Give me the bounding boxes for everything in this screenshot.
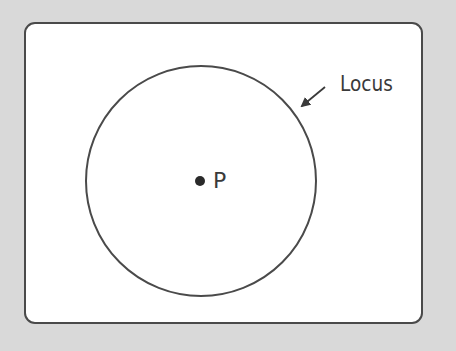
point-p-label: P xyxy=(213,168,226,193)
center-point-dot xyxy=(195,176,205,186)
locus-arrow-icon xyxy=(302,87,325,106)
locus-diagram xyxy=(0,0,456,351)
locus-label: Locus xyxy=(340,72,393,96)
